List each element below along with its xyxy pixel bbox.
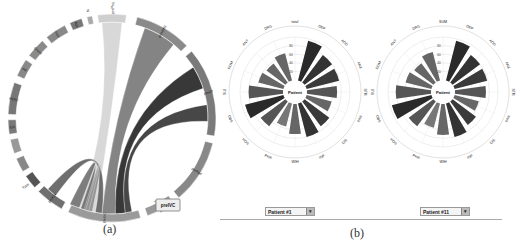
axis-label-drg: DRG <box>264 24 273 31</box>
axis-label-add: ADD <box>488 39 496 47</box>
chord-segment[interactable] <box>16 156 29 172</box>
axis-label-wih: WIH <box>292 160 299 164</box>
center-label: Patient <box>288 90 303 95</box>
chord-segment[interactable] <box>10 138 22 154</box>
caption-b: (b) <box>350 226 364 241</box>
chevron-down-icon[interactable]: ▾ <box>461 208 469 215</box>
axis-label-dep: DEP <box>318 24 327 31</box>
axis-label-ant: ANT <box>242 38 250 46</box>
axis-label-str: STR <box>511 88 515 96</box>
axis-label-obs: OBS <box>375 115 382 124</box>
chord-diagram-panel: preProjpreMMGpreRTpreRadpreRad2preIVCpre… <box>0 0 220 246</box>
axis-label-obs: OBS <box>227 115 234 124</box>
ring-label: 60 <box>289 53 293 57</box>
highlight-tooltip: preIVC <box>156 199 180 211</box>
chord-diagram: preProjpreMMGpreRTpreRadpreRad2preIVCpre… <box>0 0 220 246</box>
radial-chart-patient-1: 80604020PatienttotalDEPADDANXSTRPANDISIN… <box>220 0 370 170</box>
axis-label-pha: PHA <box>264 154 273 161</box>
center-label: Patient <box>436 90 451 95</box>
radial-bar-wih[interactable] <box>289 104 301 134</box>
chord-segment[interactable] <box>98 14 127 23</box>
axis-label-dom: DOM <box>375 61 382 70</box>
axis-label-str: STR <box>363 88 367 96</box>
ring-label: 40 <box>437 61 441 65</box>
radial-bar-str[interactable] <box>455 86 486 98</box>
axis-label-add: ADD <box>340 39 348 47</box>
axis-label-pan: PAN <box>505 114 512 122</box>
divider <box>220 219 502 220</box>
axis-label-inp: INP <box>318 154 326 160</box>
ring-label: 80 <box>289 44 293 48</box>
radial-chart-patient-11: 80604020PatientSUMDEPADDANXSTRPANDISINPW… <box>368 0 518 170</box>
axis-label-dis: DIS <box>489 138 496 145</box>
patient-select-1-value: Patient #1 <box>268 209 292 215</box>
axis-label-dom: DOM <box>227 61 234 70</box>
patient-select-2[interactable]: Patient #11 ▾ <box>420 207 470 216</box>
radial-bar-str[interactable] <box>307 86 337 98</box>
ring-label: 80 <box>437 44 441 48</box>
axis-label-drg: DRG <box>412 24 421 31</box>
axis-label-pha: PHA <box>412 154 421 161</box>
chord-segment-label: Type <box>21 182 29 190</box>
axis-label-sui: SUI <box>371 89 375 95</box>
chord-segment-label: N <box>85 9 90 13</box>
chord-segment[interactable] <box>87 16 94 25</box>
axis-label-sui: SUI <box>223 89 227 95</box>
radial-charts-panel: 80604020PatienttotalDEPADDANXSTRPANDISIN… <box>220 0 518 246</box>
axis-label-inp: INP <box>466 154 474 160</box>
axis-label-total: total <box>292 20 299 24</box>
ring-label: 20 <box>437 70 441 74</box>
chord-segment-label: preProj <box>111 2 115 14</box>
ring-label: 40 <box>289 61 293 65</box>
chevron-down-icon[interactable]: ▾ <box>306 208 314 215</box>
radial-bar-wih[interactable] <box>437 104 449 135</box>
axis-label-anx: ANX <box>504 61 511 70</box>
svg-text:preIVC: preIVC <box>161 203 176 208</box>
axis-label-anx: ANX <box>356 61 363 70</box>
patient-select-1[interactable]: Patient #1 ▾ <box>265 207 315 216</box>
axis-label-dis: DIS <box>341 138 348 145</box>
axis-label-dep: DEP <box>466 24 475 31</box>
chord-ribbon[interactable] <box>124 105 208 213</box>
ring-label: 20 <box>289 70 293 74</box>
axis-label-wih: WIH <box>440 160 447 164</box>
ring-label: 60 <box>437 53 441 57</box>
axis-label-ant: ANT <box>390 38 398 46</box>
caption-a: (a) <box>103 222 116 237</box>
axis-label-pan: PAN <box>357 114 364 122</box>
axis-label-sum: SUM <box>439 20 447 24</box>
patient-select-2-value: Patient #11 <box>423 209 449 215</box>
chord-segment-label: ER <box>10 125 16 129</box>
